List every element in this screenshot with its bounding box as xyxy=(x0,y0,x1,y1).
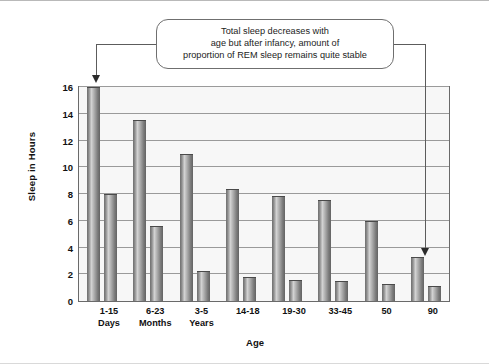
bar-total-sleep xyxy=(318,200,331,301)
y-axis-tick-label: 8 xyxy=(68,189,73,200)
y-axis-title: Sleep in Hours xyxy=(26,107,37,227)
y-axis-tick-label: 14 xyxy=(62,108,73,119)
bar-rem-sleep xyxy=(428,286,441,301)
annotation-line-2: age but after infancy, amount of xyxy=(165,38,385,50)
y-axis-tick-label: 4 xyxy=(68,242,73,253)
x-axis-title: Age xyxy=(60,337,450,348)
bar-total-sleep xyxy=(180,154,193,301)
bar-rem-sleep xyxy=(335,281,348,301)
plot-area: 02468101214161-15Days6-23Months3-5Years1… xyxy=(78,86,450,302)
callout-connector-right-horizontal xyxy=(393,44,426,45)
x-axis-tick-label: 90 xyxy=(404,306,462,318)
callout-connector-left-horizontal xyxy=(96,44,157,45)
bar-total-sleep xyxy=(226,189,239,301)
x-axis-tick-label-line: Years xyxy=(173,318,231,330)
y-axis-tick-label: 2 xyxy=(68,269,73,280)
bar-rem-sleep xyxy=(150,226,163,301)
annotation-callout: Total sleep decreases with age but after… xyxy=(156,19,394,69)
callout-connector-right-vertical xyxy=(425,44,426,249)
gridline xyxy=(79,86,449,87)
bar-total-sleep xyxy=(365,221,378,301)
bar-total-sleep xyxy=(87,87,100,301)
figure-frame: Total sleep decreases with age but after… xyxy=(0,0,489,364)
bar-rem-sleep xyxy=(289,280,302,301)
x-axis-tick-label-line: 90 xyxy=(404,306,462,318)
y-axis-tick-label: 0 xyxy=(68,296,73,307)
bar-total-sleep xyxy=(272,196,285,301)
callout-connector-left-vertical xyxy=(96,44,97,76)
bar-total-sleep xyxy=(411,257,424,301)
y-axis-tick-label: 16 xyxy=(62,82,73,93)
annotation-line-3: proportion of REM sleep remains quite st… xyxy=(165,50,385,62)
bar-total-sleep xyxy=(133,120,146,301)
gridline xyxy=(79,113,449,114)
callout-arrow-right-icon xyxy=(421,248,429,256)
y-axis-tick-label: 12 xyxy=(62,135,73,146)
callout-arrow-left-icon xyxy=(92,75,100,83)
y-axis-tick-label: 6 xyxy=(68,215,73,226)
bar-rem-sleep xyxy=(197,271,210,301)
bar-rem-sleep xyxy=(243,277,256,301)
annotation-line-1: Total sleep decreases with xyxy=(165,26,385,38)
bar-rem-sleep xyxy=(104,194,117,301)
y-axis-tick-label: 10 xyxy=(62,162,73,173)
bar-rem-sleep xyxy=(382,284,395,301)
